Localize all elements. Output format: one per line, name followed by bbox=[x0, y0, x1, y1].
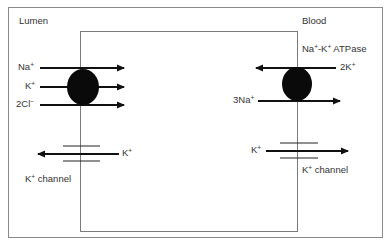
cl-ion-label: 2Cl− bbox=[16, 99, 34, 109]
nkcc-cotransporter bbox=[67, 69, 99, 105]
na-ion-label: Na+ bbox=[18, 62, 34, 72]
left-k-channel-label: K+ channel bbox=[25, 174, 71, 184]
blood-label: Blood bbox=[302, 16, 326, 26]
2k-ion-label: 2K+ bbox=[340, 62, 355, 72]
right-channel-k-label: K+ bbox=[251, 145, 261, 155]
lumen-label: Lumen bbox=[19, 16, 48, 26]
left-channel-k-label: K+ bbox=[122, 148, 132, 158]
k-ion-label: K+ bbox=[25, 81, 35, 91]
diagram-canvas bbox=[0, 0, 388, 248]
cell-box bbox=[81, 32, 298, 232]
right-k-channel-label: K+ channel bbox=[302, 165, 348, 175]
na-k-atpase-label: Na+-K+ ATPase bbox=[302, 44, 366, 54]
outer-frame bbox=[9, 8, 383, 238]
na-k-atpase-pump bbox=[282, 67, 312, 101]
3na-ion-label: 3Na+ bbox=[233, 95, 254, 105]
